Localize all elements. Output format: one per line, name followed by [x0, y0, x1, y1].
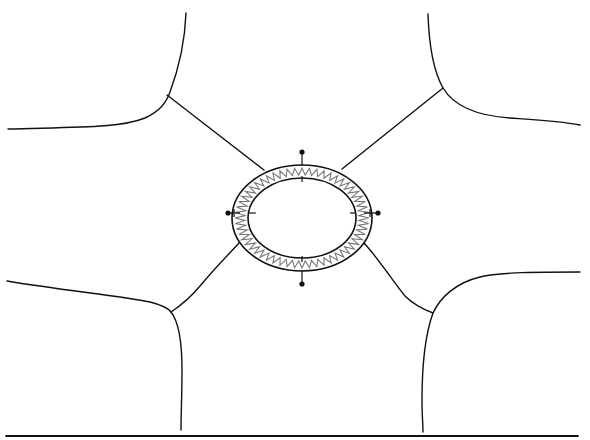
tether-lower-right — [364, 243, 433, 313]
pin-bottom-dot-icon — [299, 281, 304, 286]
upper-left-boundary-curve — [8, 13, 186, 129]
ring-inner-ellipse — [248, 178, 356, 258]
pin-top-dot-icon — [299, 149, 304, 154]
tether-lower-left — [171, 243, 239, 312]
lower-right-boundary-curve — [422, 272, 580, 432]
diagram-canvas — [0, 0, 590, 440]
pin-right-dot-icon — [375, 210, 380, 215]
pin-left-dot-icon — [225, 210, 230, 215]
lower-left-boundary-curve — [7, 281, 182, 430]
pin-left — [225, 209, 256, 217]
tether-upper-left — [167, 95, 264, 170]
ring-spring-zigzag — [235, 168, 369, 268]
upper-right-boundary-curve — [428, 14, 580, 125]
tether-upper-right — [342, 88, 443, 169]
